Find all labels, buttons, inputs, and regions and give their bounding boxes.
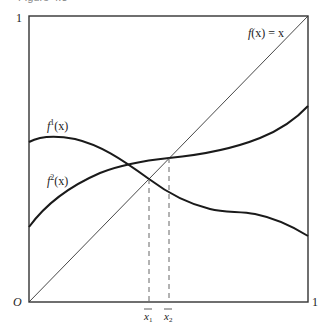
identity-label-rest: (x) = x (251, 26, 284, 40)
diagram-canvas: 1 O 1 f(x) = x f1(x) f2(x) x1 x2 (0, 0, 330, 331)
f2-label-rest: (x) (54, 174, 68, 188)
y-max-label: 1 (16, 11, 22, 25)
x1-label: x1 (143, 310, 153, 324)
x-max-label: 1 (312, 295, 318, 309)
identity-label: f(x) = x (248, 26, 284, 40)
origin-label: O (13, 295, 22, 309)
x1-label-sub: 1 (149, 316, 153, 324)
f1-label: f1(x) (47, 118, 68, 133)
f1-label-rest: (x) (54, 119, 68, 133)
f1-curve (29, 137, 308, 236)
f2-label: f2(x) (47, 173, 68, 188)
f2-curve (29, 106, 308, 227)
x2-label: x2 (163, 310, 173, 324)
x2-label-sub: 2 (169, 316, 173, 324)
